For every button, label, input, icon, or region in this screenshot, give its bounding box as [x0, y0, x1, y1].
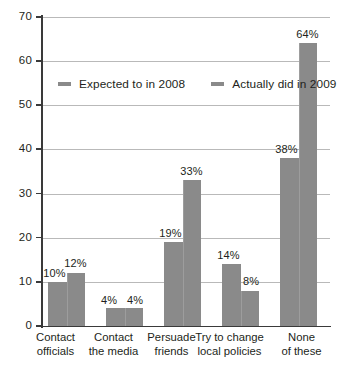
- y-tick-label-30: 30: [0, 187, 32, 199]
- bar-contact-media-actual: [125, 308, 144, 326]
- y-tick-label-50: 50: [0, 98, 32, 110]
- cat-line-1: Try to change: [188, 331, 271, 345]
- legend-swatch-icon: [211, 82, 224, 87]
- bar-contact-officials-actual: [67, 273, 86, 326]
- x-axis-line: [41, 326, 331, 328]
- data-label-local-policies-actual: 8%: [238, 275, 264, 287]
- grouped-bar-chart: 10% 12% 4% 4% 19% 33% 14% 8% 38% 64% 70 …: [0, 0, 344, 367]
- gridline-60: [42, 61, 330, 62]
- y-tick-label-0: 0: [0, 319, 32, 331]
- gridline-70: [42, 17, 330, 18]
- legend-label-actual: Actually did in 2009: [232, 77, 336, 91]
- data-label-contact-officials-actual: 12%: [60, 257, 91, 269]
- y-tick-label-70: 70: [0, 10, 32, 22]
- y-tick-label-10: 10: [0, 275, 32, 287]
- data-label-persuade-friends-expected: 19%: [155, 227, 186, 239]
- bar-none-of-these-expected: [280, 158, 299, 326]
- y-tick-label-40: 40: [0, 142, 32, 154]
- y-tick-label-20: 20: [0, 231, 32, 243]
- plot-area: 10% 12% 4% 4% 19% 33% 14% 8% 38% 64%: [42, 17, 330, 326]
- legend-item-actual: Actually did in 2009: [211, 77, 336, 91]
- bar-persuade-friends-expected: [164, 242, 183, 326]
- cat-line-2: of these: [264, 345, 339, 359]
- data-label-none-of-these-expected: 38%: [271, 143, 302, 155]
- x-category-label-none-of-these: None of these: [264, 331, 339, 358]
- data-label-none-of-these-actual: 64%: [292, 28, 323, 40]
- legend-swatch-icon: [58, 82, 71, 87]
- legend-label-expected: Expected to in 2008: [79, 77, 185, 91]
- x-category-label-local-policies: Try to change local policies: [188, 331, 271, 358]
- data-label-local-policies-expected: 14%: [213, 249, 244, 261]
- chart-legend: Expected to in 2008 Actually did in 2009: [58, 77, 337, 91]
- gridline-50: [42, 105, 330, 106]
- data-label-contact-media-expected: 4%: [97, 294, 121, 306]
- y-tick-label-60: 60: [0, 54, 32, 66]
- legend-item-expected: Expected to in 2008: [58, 77, 185, 91]
- data-label-contact-media-actual: 4%: [123, 294, 147, 306]
- bar-local-policies-expected: [222, 264, 241, 326]
- bar-contact-officials-expected: [48, 282, 67, 326]
- bar-persuade-friends-actual: [183, 180, 202, 326]
- bar-local-policies-actual: [241, 291, 260, 326]
- data-label-persuade-friends-actual: 33%: [176, 165, 207, 177]
- cat-line-2: local policies: [188, 345, 271, 359]
- bar-contact-media-expected: [106, 308, 125, 326]
- cat-line-1: None: [264, 331, 339, 345]
